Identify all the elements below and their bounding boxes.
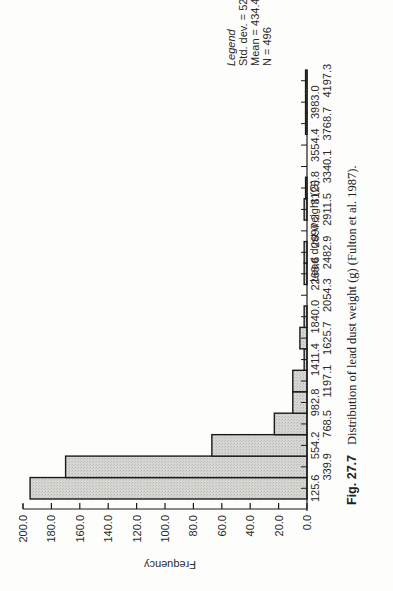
x-tick-label: 3554.4: [309, 128, 321, 162]
y-tick-label: 200.0: [17, 515, 29, 543]
y-axis-title: Frequency: [144, 559, 196, 571]
x-tick-label: 2482.9: [321, 235, 333, 269]
y-tick-label: 180.0: [45, 515, 57, 543]
x-tick-label: 125.6: [309, 475, 321, 503]
figure-caption: Fig. 27.7Distribution of lead dust weigh…: [345, 165, 360, 505]
legend-n: N = 496: [261, 27, 273, 66]
y-tick-label: 100.0: [159, 515, 171, 543]
y-tick-label: 160.0: [74, 515, 86, 543]
y-axis: 0.020.040.060.080.0100.0120.0140.0160.01…: [17, 503, 313, 543]
legend-mean: Mean = 434.4: [249, 0, 261, 66]
x-tick-label: 554.2: [309, 432, 321, 460]
y-tick-label: 60.0: [216, 515, 228, 536]
y-tick-label: 80.0: [187, 515, 199, 536]
histogram-bar: [66, 456, 307, 477]
caption-text: Distribution of lead dust weight (g) (Fu…: [345, 165, 359, 444]
figure-number: Fig. 27.7: [345, 455, 359, 505]
x-tick-label: 339.9: [321, 453, 333, 481]
histogram-bar: [30, 478, 307, 499]
legend-title: Legend: [225, 28, 237, 66]
x-tick-label: 4197.3: [321, 64, 333, 98]
legend: Legend Std. dev. = 524.36 Mean = 434.4 N…: [225, 0, 273, 66]
x-tick-label: 3768.7: [321, 107, 333, 141]
x-tick-label: 1197.1: [321, 365, 333, 398]
x-tick-label: 1411.4: [309, 343, 321, 376]
legend-std-dev: Std. dev. = 524.36: [237, 0, 249, 66]
y-tick-label: 0.0: [301, 515, 313, 530]
y-tick-label: 120.0: [131, 515, 143, 543]
histogram-bar: [212, 435, 307, 456]
histogram-bars: [30, 70, 307, 499]
histogram-chart: 0.020.040.060.080.0100.0120.0140.0160.01…: [0, 0, 393, 591]
x-tick-label: 768.5: [321, 410, 333, 438]
x-axis-title: Lead dust weight (G): [308, 180, 320, 282]
rotated-figure-page: 0.020.040.060.080.0100.0120.0140.0160.01…: [0, 0, 393, 591]
y-tick-label: 140.0: [102, 515, 114, 543]
x-tick-label: 1840.0: [309, 300, 321, 334]
x-tick-label: 3983.0: [309, 85, 321, 119]
x-tick-label: 982.8: [309, 389, 321, 417]
y-tick-label: 20.0: [273, 515, 285, 536]
x-tick-label: 3340.1: [321, 150, 333, 184]
y-tick-label: 40.0: [244, 515, 256, 536]
x-tick-label: 1625.7: [321, 321, 333, 355]
x-tick-label: 2054.3: [321, 278, 333, 312]
x-tick-label: 2911.5: [321, 193, 333, 226]
